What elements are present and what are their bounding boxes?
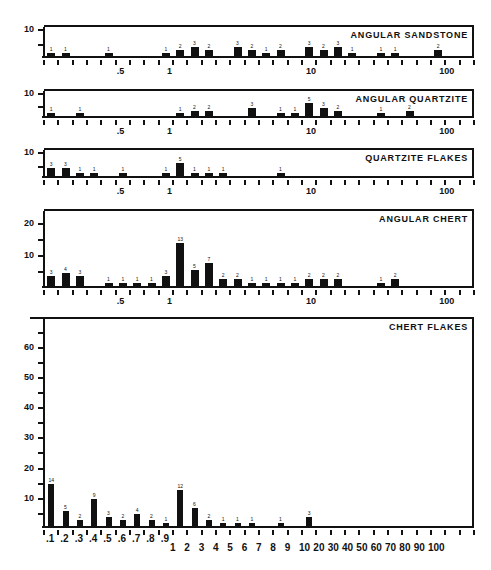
data-bar	[434, 50, 442, 56]
bar-value-label: 1	[145, 276, 159, 282]
x-tick	[86, 530, 88, 535]
x-tick	[459, 290, 461, 295]
x-tick	[72, 180, 74, 185]
data-bar	[77, 520, 83, 526]
bar-value-label: 2	[173, 43, 187, 49]
data-bar	[176, 113, 184, 116]
y-tick	[38, 255, 44, 257]
y-tick-label: 10	[10, 88, 34, 98]
data-bar	[76, 113, 84, 116]
x-tick	[473, 60, 475, 65]
x-tick	[172, 290, 174, 295]
x-tick	[100, 290, 102, 295]
x-tick	[86, 180, 88, 185]
data-bar	[348, 53, 356, 56]
data-bar	[119, 283, 127, 286]
x-tick	[287, 530, 289, 535]
x-tick	[416, 60, 418, 65]
y-tick	[38, 513, 44, 515]
data-bar	[291, 283, 299, 286]
bar-value-label: 7	[202, 256, 216, 262]
bar-value-label: 2	[403, 104, 417, 110]
bar-value-label: 1	[274, 166, 288, 172]
bar-value-label: 2	[202, 43, 216, 49]
bar-value-label: 3	[159, 269, 173, 275]
x-tick-label: .5	[117, 66, 125, 76]
x-tick	[344, 60, 346, 65]
x-tick	[57, 120, 59, 125]
data-bar	[192, 508, 198, 526]
x-tick	[301, 180, 303, 185]
x-tick	[244, 290, 246, 295]
x-tick-label: 10	[306, 126, 316, 136]
data-bar	[377, 283, 385, 286]
x-tick	[401, 290, 403, 295]
data-bar	[119, 173, 127, 176]
bar-value-label: 1	[159, 46, 173, 52]
x-tick-label: .4	[89, 533, 97, 544]
x-tick	[401, 180, 403, 185]
x-tick-label: 10	[306, 296, 316, 306]
bar-value-label: 3	[231, 40, 245, 46]
data-bar	[191, 111, 199, 116]
y-tick	[38, 239, 44, 241]
data-bar	[91, 499, 97, 526]
x-tick-label: .7	[132, 533, 140, 544]
x-tick	[430, 290, 432, 295]
x-tick	[43, 530, 45, 535]
x-tick	[258, 180, 260, 185]
x-tick	[201, 60, 203, 65]
bar-value-label: 1	[374, 46, 388, 52]
bar-value-label: 1	[102, 276, 116, 282]
x-tick	[215, 180, 217, 185]
x-tick	[287, 120, 289, 125]
bar-value-label: 1	[87, 166, 101, 172]
x-tick	[330, 180, 332, 185]
data-bar	[134, 514, 140, 526]
y-tick	[38, 437, 44, 439]
x-tick-label: 100	[439, 126, 454, 136]
data-bar	[205, 263, 213, 286]
x-tick-label: .5	[117, 126, 125, 136]
x-tick	[129, 120, 131, 125]
data-bar	[234, 47, 242, 56]
x-tick	[272, 530, 274, 535]
x-tick	[401, 60, 403, 65]
chart-panel-angular-chert: ANGULAR CHERT2010.5110100343111131357221…	[44, 209, 474, 288]
bar-value-label: 3	[73, 269, 87, 275]
x-tick	[416, 120, 418, 125]
data-bar	[377, 53, 385, 56]
x-tick-label: 80	[399, 542, 410, 553]
bar-value-label: 12	[173, 483, 187, 489]
x-tick	[315, 530, 317, 535]
x-tick	[244, 120, 246, 125]
x-tick	[373, 60, 375, 65]
x-tick	[43, 60, 45, 65]
x-tick-label: 3	[199, 542, 205, 553]
data-bar	[377, 113, 385, 116]
x-tick-label: 2	[184, 542, 190, 553]
x-tick-label: 7	[256, 542, 262, 553]
x-tick	[258, 290, 260, 295]
x-tick	[430, 60, 432, 65]
data-bar	[248, 283, 256, 286]
y-tick	[38, 422, 44, 424]
bar-value-label: 1	[173, 106, 187, 112]
x-tick	[416, 530, 418, 535]
x-tick	[229, 530, 231, 535]
data-bar	[235, 523, 241, 526]
bar-value-label: 5	[173, 156, 187, 162]
chart-panel-angular-sandstone: ANGULAR SANDSTONE10.51101001111232321232…	[44, 25, 474, 58]
x-tick	[57, 60, 59, 65]
x-tick-label: 30	[328, 542, 339, 553]
bar-value-label: 4	[59, 266, 73, 272]
x-tick	[215, 290, 217, 295]
x-tick	[473, 120, 475, 125]
bar-value-label: 2	[331, 104, 345, 110]
bar-value-label: 1	[116, 166, 130, 172]
y-tick	[38, 93, 44, 95]
x-tick	[416, 290, 418, 295]
x-tick-label: 50	[356, 542, 367, 553]
data-bar	[163, 523, 169, 526]
x-tick	[272, 180, 274, 185]
